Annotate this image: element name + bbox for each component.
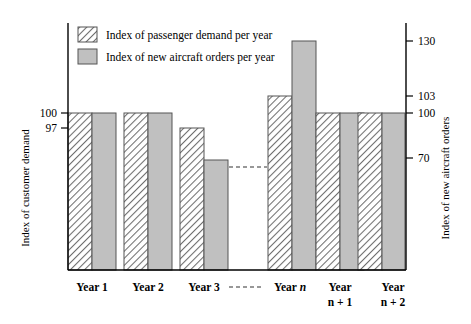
- xtick-label-year-n-plus-2-line1: Year: [382, 281, 405, 293]
- xtick-label-year-3: Year 3: [188, 281, 220, 293]
- xtick-label-year-1: Year 1: [76, 281, 108, 293]
- xtick-label-year-n-plus-2-line2: n + 2: [381, 296, 406, 308]
- bar-aircraft-orders-year-n: [292, 41, 316, 270]
- xtick-label-year-2: Year 2: [132, 281, 164, 293]
- bar-aircraft-orders-year-n-plus-2: [382, 113, 405, 270]
- bar-group-year-2: [124, 113, 172, 270]
- bar-passenger-demand-year-2: [124, 113, 148, 270]
- bar-passenger-demand-year-n-plus-1: [316, 113, 340, 270]
- bar-group-year-1: [68, 113, 116, 270]
- y2-axis-title: Index of new aircraft orders: [439, 117, 451, 240]
- xtick-label-year-n-plus-1-line1: Year: [329, 281, 352, 293]
- bar-passenger-demand-year-n-plus-2: [358, 113, 382, 270]
- y-axis-title: Index of customer demand: [19, 129, 31, 247]
- legend-label-aircraft-orders: Index of new aircraft orders per year: [106, 51, 275, 64]
- bar-aircraft-orders-year-3: [204, 160, 228, 270]
- y2tick-label-103: 103: [418, 90, 436, 102]
- chart-figure: 100 97 130 103 100 70 Index of customer …: [0, 0, 471, 324]
- bar-aircraft-orders-year-1: [92, 113, 116, 270]
- bar-group-year-n-plus-1: [316, 113, 364, 270]
- ytick-label-97: 97: [46, 122, 58, 134]
- legend-swatch-passenger-demand: [78, 27, 97, 42]
- y2tick-label-100: 100: [418, 107, 436, 119]
- bar-group-year-n-plus-2: [358, 113, 405, 270]
- bar-passenger-demand-year-n: [268, 96, 292, 270]
- ytick-label-100: 100: [40, 107, 58, 119]
- xtick-year-n-symbol: n: [300, 281, 306, 293]
- xtick-label-year-n: Year n: [274, 281, 306, 293]
- xtick-year-n-word: Year: [274, 281, 300, 293]
- legend-label-passenger-demand: Index of passenger demand per year: [106, 29, 273, 42]
- bar-chart-svg: 100 97 130 103 100 70 Index of customer …: [0, 0, 471, 324]
- xtick-label-year-n-plus-1-line2: n + 1: [328, 296, 353, 308]
- y2tick-label-130: 130: [418, 35, 436, 47]
- bar-passenger-demand-year-1: [68, 113, 92, 270]
- bar-aircraft-orders-year-2: [148, 113, 172, 270]
- legend-swatch-aircraft-orders: [78, 49, 97, 64]
- bar-passenger-demand-year-3: [180, 128, 204, 270]
- y2tick-label-70: 70: [418, 152, 430, 164]
